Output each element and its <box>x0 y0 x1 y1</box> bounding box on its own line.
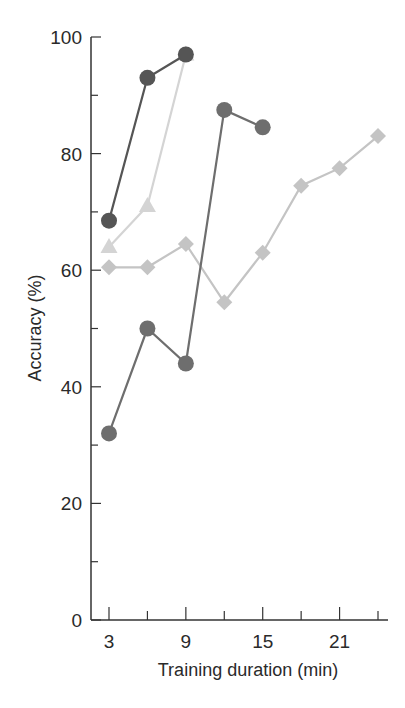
x-axis-title: Training duration (min) <box>158 660 338 680</box>
circle-marker <box>101 213 117 229</box>
series-line <box>109 110 263 434</box>
diamond-marker <box>293 178 309 194</box>
diamond-marker <box>139 259 155 275</box>
series-line <box>109 136 378 302</box>
circle-marker <box>139 70 155 86</box>
circle-marker <box>255 119 271 135</box>
axes: 020406080100391521 <box>50 27 388 652</box>
series-diamond <box>101 128 386 310</box>
y-tick-label: 40 <box>61 377 82 398</box>
circle-marker <box>139 321 155 337</box>
triangle-marker <box>139 197 156 212</box>
line-chart: 020406080100391521 Training duration (mi… <box>0 0 405 708</box>
x-tick-label: 9 <box>181 631 192 652</box>
circle-marker <box>178 355 194 371</box>
diamond-marker <box>101 259 117 275</box>
y-tick-label: 0 <box>71 610 82 631</box>
y-tick-label: 80 <box>61 144 82 165</box>
x-tick-label: 21 <box>329 631 350 652</box>
circle-marker <box>216 102 232 118</box>
circle-marker <box>178 46 194 62</box>
y-tick-label: 20 <box>61 493 82 514</box>
y-tick-label: 60 <box>61 260 82 281</box>
x-tick-label: 3 <box>104 631 115 652</box>
diamond-marker <box>178 236 194 252</box>
x-tick-label: 15 <box>252 631 273 652</box>
y-tick-label: 100 <box>50 27 82 48</box>
circle-marker <box>101 425 117 441</box>
y-axis-title: Accuracy (%) <box>25 274 45 381</box>
series-layer <box>101 45 387 441</box>
